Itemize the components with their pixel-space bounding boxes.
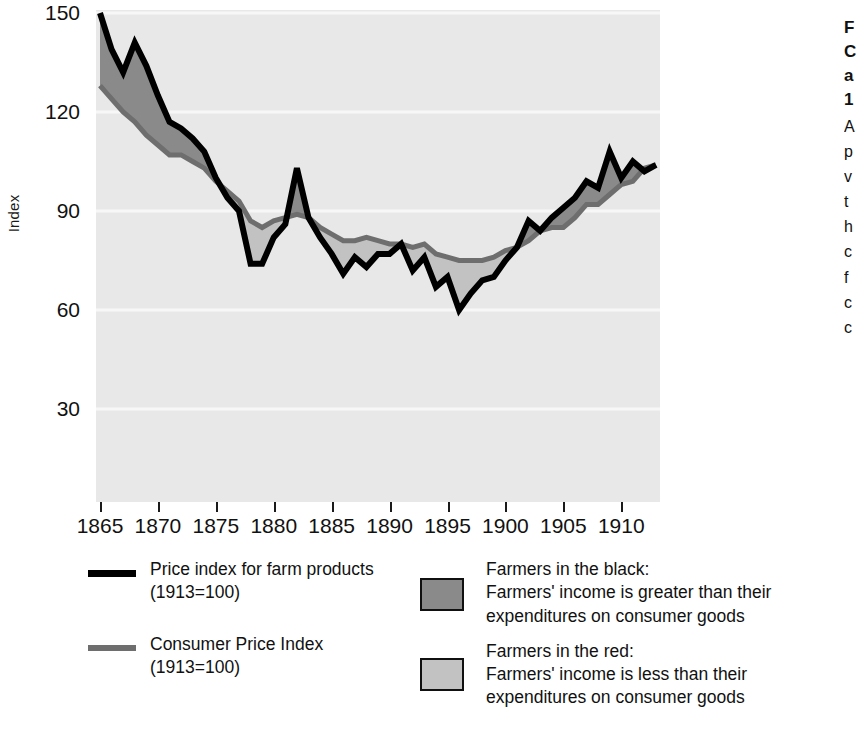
legend-swatch-wrap	[88, 631, 150, 651]
side-caption-heading-line: 1	[844, 88, 864, 112]
y-axis-tick-label: 30	[57, 398, 80, 419]
dark-gray-box-swatch-icon	[420, 578, 464, 611]
side-caption-cropped: FCa1Apvthcfcct	[844, 16, 864, 346]
page-root: Index 150120906030 186518701875188018851…	[0, 0, 864, 742]
x-axis-tick-label: 1895	[424, 515, 471, 536]
legend-column-series: Price index for farm products (1913=100)…	[88, 556, 418, 689]
side-caption-heading-line: a	[844, 64, 864, 88]
black-line-swatch-icon	[88, 570, 136, 577]
x-axis-tick-label: 1875	[192, 515, 239, 536]
x-axis-tick-label: 1865	[77, 515, 124, 536]
x-axis-tick-mark	[563, 502, 565, 512]
side-caption-body-line: f	[844, 266, 864, 289]
legend-item-farmers-in-the-black: Farmers in the black: Farmers' income is…	[420, 556, 864, 628]
x-axis: 1865187018751880188518901895190019051910	[96, 502, 660, 546]
legend-column-areas: Farmers in the black: Farmers' income is…	[420, 556, 864, 720]
legend-line-3: expenditures on consumer goods	[486, 605, 771, 628]
side-caption-heading-line: F	[844, 16, 864, 40]
legend-item-farmers-in-the-red: Farmers in the red: Farmers' income is l…	[420, 638, 864, 710]
legend-line-2: (1913=100)	[150, 656, 323, 679]
y-axis-tick-labels: 150120906030	[0, 0, 88, 470]
legend-item-text: Consumer Price Index (1913=100)	[150, 631, 323, 680]
x-axis-tick-mark	[100, 502, 102, 512]
legend-line-1: Price index for farm products	[150, 558, 374, 581]
x-axis-tick-mark	[274, 502, 276, 512]
light-gray-box-swatch-icon	[420, 658, 464, 691]
legend-line-1: Farmers in the black:	[486, 558, 771, 581]
side-caption-body-line: c	[844, 291, 864, 314]
x-axis-tick-mark	[448, 502, 450, 512]
x-axis-tick-label: 1890	[366, 515, 413, 536]
chart-legend: Price index for farm products (1913=100)…	[0, 556, 864, 742]
legend-swatch-wrap	[420, 638, 486, 691]
side-caption-body-line: p	[844, 140, 864, 163]
side-caption-body-line: h	[844, 215, 864, 238]
gray-line-swatch-icon	[88, 645, 136, 651]
legend-item-text: Farmers in the red: Farmers' income is l…	[486, 638, 747, 710]
x-axis-tick-mark	[505, 502, 507, 512]
x-axis-tick-mark	[216, 502, 218, 512]
side-caption-heading-line: C	[844, 40, 864, 64]
legend-item-farm-price-index: Price index for farm products (1913=100)	[88, 556, 418, 605]
x-axis-tick-label: 1870	[135, 515, 182, 536]
legend-swatch-wrap	[88, 556, 150, 577]
side-caption-body-line: c	[844, 316, 864, 339]
side-caption-body-line: v	[844, 165, 864, 188]
legend-line-1: Farmers in the red:	[486, 640, 747, 663]
legend-line-2: (1913=100)	[150, 581, 374, 604]
x-axis-tick-mark	[332, 502, 334, 512]
side-caption-body-line: t	[844, 341, 864, 346]
chart-figure: Index 150120906030 186518701875188018851…	[0, 0, 700, 545]
legend-item-text: Farmers in the black: Farmers' income is…	[486, 556, 771, 628]
x-axis-tick-label: 1885	[308, 515, 355, 536]
legend-item-consumer-price-index: Consumer Price Index (1913=100)	[88, 631, 418, 680]
side-caption-body-line: t	[844, 190, 864, 213]
legend-line-2: Farmers' income is less than their	[486, 663, 747, 686]
y-axis-tick-label: 60	[57, 299, 80, 320]
plot-area	[96, 10, 660, 502]
legend-line-1: Consumer Price Index	[150, 633, 323, 656]
legend-line-3: expenditures on consumer goods	[486, 686, 747, 709]
x-axis-tick-label: 1910	[598, 515, 645, 536]
y-axis-tick-label: 150	[45, 2, 80, 23]
line-price-index-farm-products	[100, 13, 656, 310]
y-axis-tick-label: 120	[45, 101, 80, 122]
x-axis-tick-label: 1905	[540, 515, 587, 536]
side-caption-body-line: c	[844, 240, 864, 263]
side-caption-body-line: A	[844, 115, 864, 138]
legend-line-2: Farmers' income is greater than their	[486, 581, 771, 604]
x-axis-tick-mark	[621, 502, 623, 512]
chart-svg	[96, 10, 660, 502]
legend-swatch-wrap	[420, 556, 486, 611]
x-axis-tick-mark	[158, 502, 160, 512]
x-axis-tick-label: 1880	[250, 515, 297, 536]
y-axis-tick-label: 90	[57, 200, 80, 221]
x-axis-tick-mark	[390, 502, 392, 512]
x-axis-tick-label: 1900	[482, 515, 529, 536]
legend-item-text: Price index for farm products (1913=100)	[150, 556, 374, 605]
